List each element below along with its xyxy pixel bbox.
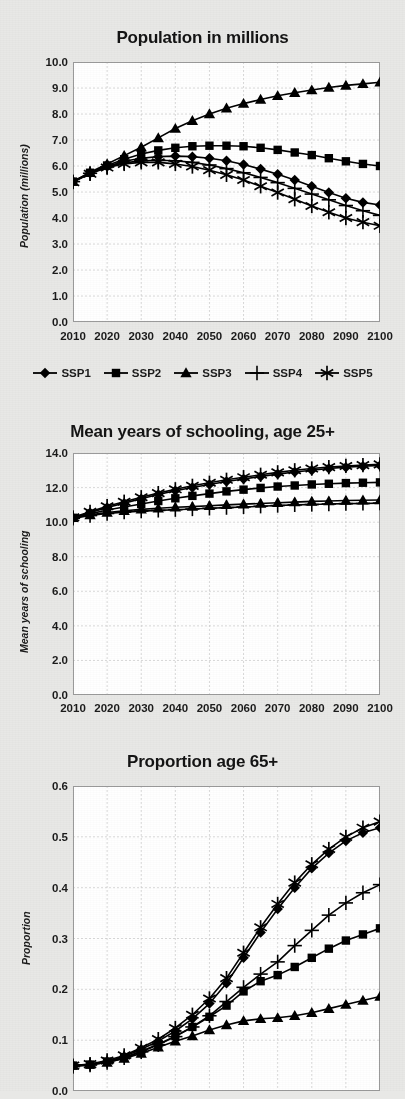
diamond-marker-icon — [32, 365, 58, 381]
x-tick-label: 2020 — [94, 702, 120, 714]
x-tick-label: 2080 — [299, 330, 325, 342]
y-tick-label: 8.0 — [28, 551, 68, 563]
legend-item-ssp1[interactable]: SSP1 — [26, 365, 96, 381]
legend-ssp: SSP1SSP2SSP3SSP4SSP5 — [0, 362, 405, 384]
y-tick-label: 0.0 — [28, 689, 68, 701]
y-tick-label: 2.0 — [28, 654, 68, 666]
y-tick-label: 6.0 — [28, 585, 68, 597]
x-tick-label: 2060 — [231, 330, 257, 342]
y-tick-label: 0.0 — [28, 316, 68, 328]
chart-panel-proportion: Proportion age 65+ Proportion 0.00.10.20… — [0, 730, 405, 1099]
y-tick-label: 0.3 — [28, 933, 68, 945]
legend-item-ssp3[interactable]: SSP3 — [167, 365, 237, 381]
legend-item-ssp5[interactable]: SSP5 — [308, 365, 378, 381]
x-tick-label: 2050 — [197, 330, 223, 342]
x-tick-label: 2020 — [94, 330, 120, 342]
chart-panel-population: Population in millions Population (milli… — [0, 0, 405, 352]
x-tick-label: 2030 — [128, 702, 154, 714]
legend-label: SSP2 — [132, 367, 161, 379]
plot-area-population — [73, 62, 380, 322]
y-tick-label: 0.2 — [28, 983, 68, 995]
x-tick-label: 2010 — [60, 330, 86, 342]
x-tick-label: 2090 — [333, 702, 359, 714]
y-tick-label: 8.0 — [28, 108, 68, 120]
series-svg-schooling — [73, 453, 380, 695]
y-axis-ticks-schooling: 0.02.04.06.08.010.012.014.0 — [28, 400, 68, 730]
y-tick-label: 0.0 — [28, 1085, 68, 1097]
legend-label: SSP3 — [202, 367, 231, 379]
x-axis-ticks-population: 2010202020302040205020602070208020902100 — [73, 330, 380, 346]
y-tick-label: 14.0 — [28, 447, 68, 459]
x-tick-label: 2040 — [163, 330, 189, 342]
legend-label: SSP5 — [343, 367, 372, 379]
plot-canvas-schooling — [73, 453, 380, 695]
y-tick-label: 1.0 — [28, 290, 68, 302]
x-tick-label: 2030 — [128, 330, 154, 342]
x-tick-label: 2100 — [367, 330, 393, 342]
y-tick-label: 7.0 — [28, 134, 68, 146]
x-tick-label: 2080 — [299, 702, 325, 714]
series-svg-population — [73, 62, 380, 322]
x-tick-label: 2010 — [60, 702, 86, 714]
y-tick-label: 10.0 — [28, 516, 68, 528]
asterisk-marker-icon — [314, 365, 340, 381]
legend-label: SSP1 — [61, 367, 90, 379]
x-tick-label: 2050 — [197, 702, 223, 714]
y-tick-label: 0.6 — [28, 780, 68, 792]
plot-area-proportion — [73, 786, 380, 1091]
y-axis-ticks-proportion: 0.00.10.20.30.40.50.6 — [28, 730, 68, 1099]
chart-panel-schooling: Mean years of schooling, age 25+ Mean ye… — [0, 400, 405, 730]
y-tick-label: 6.0 — [28, 160, 68, 172]
x-tick-label: 2090 — [333, 330, 359, 342]
x-tick-label: 2060 — [231, 702, 257, 714]
plus-marker-icon — [244, 365, 270, 381]
plot-area-schooling — [73, 453, 380, 695]
y-tick-label: 2.0 — [28, 264, 68, 276]
legend-label: SSP4 — [273, 367, 302, 379]
x-tick-label: 2070 — [265, 702, 291, 714]
triangle-marker-icon — [173, 365, 199, 381]
plot-canvas-proportion — [73, 786, 380, 1091]
legend-item-ssp2[interactable]: SSP2 — [97, 365, 167, 381]
square-marker-icon — [103, 365, 129, 381]
y-axis-ticks-population: 0.01.02.03.04.05.06.07.08.09.010.0 — [28, 0, 68, 352]
x-tick-label: 2040 — [163, 702, 189, 714]
y-tick-label: 0.1 — [28, 1034, 68, 1046]
y-tick-label: 12.0 — [28, 482, 68, 494]
y-tick-label: 0.4 — [28, 882, 68, 894]
y-tick-label: 3.0 — [28, 238, 68, 250]
y-tick-label: 0.5 — [28, 831, 68, 843]
y-tick-label: 5.0 — [28, 186, 68, 198]
y-tick-label: 10.0 — [28, 56, 68, 68]
x-tick-label: 2070 — [265, 330, 291, 342]
x-tick-label: 2100 — [367, 702, 393, 714]
y-tick-label: 9.0 — [28, 82, 68, 94]
x-axis-ticks-schooling: 2010202020302040205020602070208020902100 — [73, 702, 380, 718]
legend-item-ssp4[interactable]: SSP4 — [238, 365, 308, 381]
series-svg-proportion — [73, 786, 380, 1091]
plot-canvas-population — [73, 62, 380, 322]
y-tick-label: 4.0 — [28, 212, 68, 224]
y-tick-label: 4.0 — [28, 620, 68, 632]
